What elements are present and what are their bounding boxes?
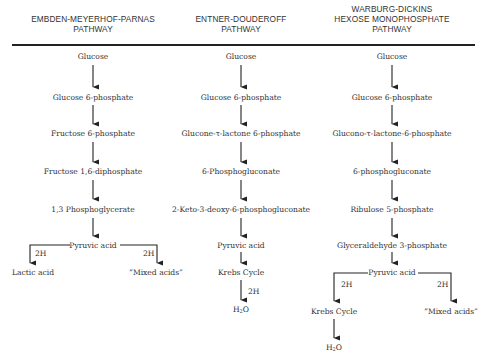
emp-branch-right-arrow <box>120 245 157 263</box>
wd-branch-left-arrow <box>334 273 368 301</box>
wd-branch-right-arrow <box>418 273 451 301</box>
emp-branch-left-arrow <box>30 245 70 263</box>
pathway-arrows <box>0 0 484 363</box>
